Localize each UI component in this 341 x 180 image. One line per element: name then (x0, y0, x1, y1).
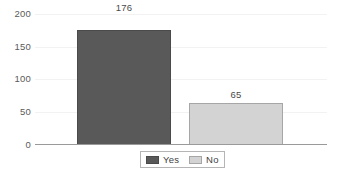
y-tick-150: 150 (1, 42, 31, 52)
legend: Yes No (140, 151, 225, 168)
legend-item-no[interactable]: No (189, 155, 219, 165)
plot-area: 176 65 (35, 14, 327, 145)
bar-no[interactable] (189, 103, 283, 145)
bar-yes[interactable] (77, 30, 171, 145)
gridline-200 (35, 14, 327, 15)
x-axis-line (35, 144, 327, 145)
y-tick-0: 0 (1, 140, 31, 150)
bar-chart: 176 65 200 150 100 50 0 Yes No (0, 0, 341, 180)
bar-value-label-no: 65 (189, 89, 283, 100)
legend-label-no: No (206, 155, 219, 165)
legend-label-yes: Yes (163, 155, 179, 165)
y-tick-100: 100 (1, 74, 31, 84)
y-tick-200: 200 (1, 9, 31, 19)
bar-value-label-yes: 176 (77, 2, 171, 13)
legend-swatch-yes-icon (146, 156, 159, 164)
y-tick-50: 50 (1, 107, 31, 117)
legend-swatch-no-icon (189, 156, 202, 164)
y-axis: 200 150 100 50 0 (0, 0, 31, 180)
legend-item-yes[interactable]: Yes (146, 155, 179, 165)
